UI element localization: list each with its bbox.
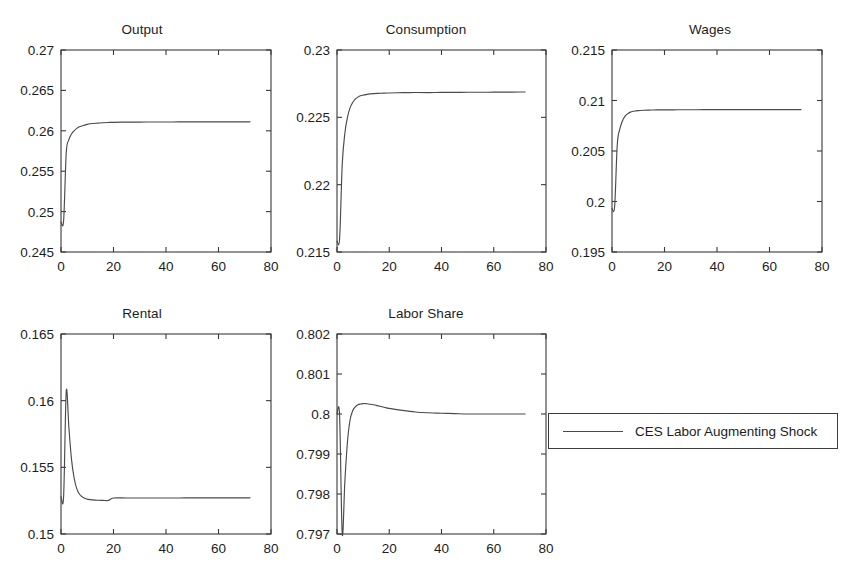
axis-box <box>61 334 271 534</box>
y-tick-label: 0.155 <box>20 460 54 475</box>
x-tick-label: 0 <box>333 541 341 556</box>
y-tick-label: 0.798 <box>296 487 330 502</box>
data-series-line <box>612 110 801 212</box>
x-tick-label: 20 <box>657 259 672 274</box>
chart-legend: CES Labor Augmenting Shock <box>548 413 838 449</box>
panel-title: Consumption <box>284 22 568 37</box>
plot-area: 0204060800.2150.220.2250.23 <box>284 0 568 290</box>
x-tick-label: 60 <box>211 259 226 274</box>
x-tick-label: 80 <box>538 259 553 274</box>
y-tick-label: 0.215 <box>296 245 330 260</box>
panel-title: Output <box>0 22 284 37</box>
chart-panel-consumption: Consumption0204060800.2150.220.2250.23 <box>284 0 568 290</box>
plot-area: 0204060800.150.1550.160.165 <box>0 290 284 580</box>
y-tick-label: 0.265 <box>20 83 54 98</box>
chart-panel-output: Output0204060800.2450.250.2550.260.2650.… <box>0 0 284 290</box>
y-tick-label: 0.22 <box>304 178 330 193</box>
y-tick-label: 0.25 <box>28 205 54 220</box>
x-tick-label: 40 <box>434 541 449 556</box>
plot-area: 0204060800.2450.250.2550.260.2650.27 <box>0 0 284 290</box>
y-tick-label: 0.802 <box>296 327 330 342</box>
x-tick-label: 60 <box>486 259 501 274</box>
chart-panel-rental: Rental0204060800.150.1550.160.165 <box>0 290 284 580</box>
x-tick-label: 20 <box>106 259 121 274</box>
y-tick-label: 0.799 <box>296 447 330 462</box>
y-tick-label: 0.255 <box>20 164 54 179</box>
figure-canvas: Output0204060800.2450.250.2550.260.2650.… <box>0 0 852 580</box>
y-tick-label: 0.797 <box>296 527 330 542</box>
y-tick-label: 0.15 <box>28 527 54 542</box>
x-tick-label: 20 <box>106 541 121 556</box>
x-tick-label: 80 <box>538 541 553 556</box>
legend-line-sample <box>563 431 623 432</box>
y-tick-label: 0.195 <box>571 245 605 260</box>
y-tick-label: 0.8 <box>311 407 330 422</box>
x-tick-label: 40 <box>434 259 449 274</box>
y-tick-label: 0.801 <box>296 367 330 382</box>
data-series-line <box>337 92 525 245</box>
x-tick-label: 0 <box>608 259 616 274</box>
x-tick-label: 60 <box>762 259 777 274</box>
axis-box <box>61 50 271 252</box>
x-tick-label: 20 <box>382 259 397 274</box>
panel-title: Wages <box>568 22 852 37</box>
y-tick-label: 0.215 <box>571 43 605 58</box>
y-tick-label: 0.21 <box>579 94 605 109</box>
x-tick-label: 0 <box>333 259 341 274</box>
data-series-line <box>337 404 525 536</box>
x-tick-label: 0 <box>57 541 65 556</box>
x-tick-label: 20 <box>382 541 397 556</box>
x-tick-label: 80 <box>263 259 278 274</box>
data-series-line <box>61 122 250 226</box>
x-tick-label: 80 <box>263 541 278 556</box>
panel-title: Rental <box>0 306 284 321</box>
axis-box <box>337 50 546 252</box>
y-tick-label: 0.205 <box>571 144 605 159</box>
data-series-line <box>61 389 250 504</box>
panel-title: Labor Share <box>284 306 568 321</box>
x-tick-label: 0 <box>57 259 65 274</box>
y-tick-label: 0.23 <box>304 43 330 58</box>
y-tick-label: 0.27 <box>28 43 54 58</box>
y-tick-label: 0.26 <box>28 124 54 139</box>
legend-label: CES Labor Augmenting Shock <box>635 424 817 439</box>
y-tick-label: 0.225 <box>296 110 330 125</box>
plot-area: 0204060800.1950.20.2050.210.215 <box>568 0 852 290</box>
x-tick-label: 60 <box>486 541 501 556</box>
y-tick-label: 0.165 <box>20 327 54 342</box>
axis-box <box>337 334 546 534</box>
x-tick-label: 80 <box>814 259 829 274</box>
x-tick-label: 40 <box>709 259 724 274</box>
x-tick-label: 60 <box>211 541 226 556</box>
axis-box <box>612 50 822 252</box>
y-tick-label: 0.2 <box>586 195 605 210</box>
chart-panel-labor-share: Labor Share0204060800.7970.7980.7990.80.… <box>284 290 568 580</box>
plot-area: 0204060800.7970.7980.7990.80.8010.802 <box>284 290 568 580</box>
chart-panel-wages: Wages0204060800.1950.20.2050.210.215 <box>568 0 852 290</box>
x-tick-label: 40 <box>158 259 173 274</box>
y-tick-label: 0.245 <box>20 245 54 260</box>
x-tick-label: 40 <box>158 541 173 556</box>
y-tick-label: 0.16 <box>28 394 54 409</box>
